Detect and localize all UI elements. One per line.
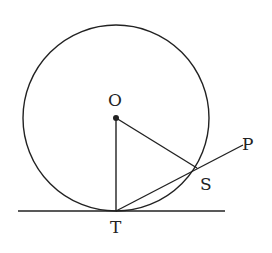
label-P: P — [242, 134, 253, 154]
geometry-diagram: O P S T — [0, 0, 272, 253]
label-T: T — [110, 217, 122, 237]
center-point — [113, 115, 119, 121]
label-S: S — [200, 174, 212, 194]
label-O: O — [108, 90, 122, 110]
segment-OS — [116, 118, 197, 168]
segment-TP — [116, 145, 243, 211]
